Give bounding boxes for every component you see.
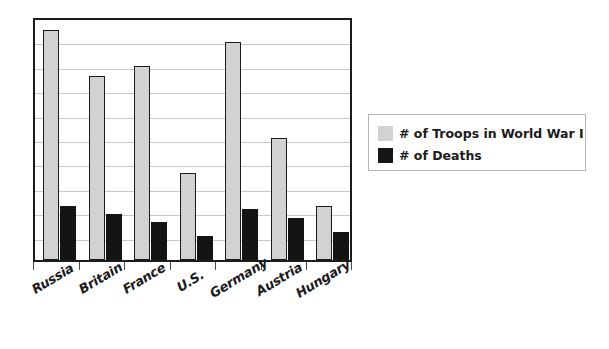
x-axis-label-france: France: [120, 260, 168, 297]
bar-britain-deaths: [106, 214, 122, 260]
x-axis-labels: RussiaBritainFranceU.S.GermanyAustriaHun…: [0, 262, 380, 349]
bar-us-troops: [180, 173, 196, 260]
x-axis-label-us: U.S.: [174, 267, 207, 295]
plot-area: [33, 18, 352, 262]
bar-france-troops: [134, 66, 150, 260]
bar-group: [217, 20, 263, 260]
legend-entry-troops: # of Troops in World War I: [378, 122, 585, 144]
bar-russia-troops: [43, 30, 59, 260]
bar-hungary-troops: [316, 206, 332, 260]
bar-chart: RussiaBritainFranceU.S.GermanyAustriaHun…: [0, 0, 609, 349]
legend-entry-deaths: # of Deaths: [378, 144, 585, 166]
bar-britain-troops: [89, 76, 105, 260]
legend-label-deaths: # of Deaths: [399, 148, 482, 163]
bar-austria-troops: [271, 138, 287, 260]
x-axis-label-britain: Britain: [76, 259, 125, 297]
x-axis-label-russia: Russia: [29, 260, 76, 297]
legend-swatch-troops-icon: [378, 126, 393, 141]
bar-hungary-deaths: [333, 232, 349, 260]
legend: # of Troops in World War I # of Deaths: [368, 114, 586, 171]
legend-label-troops: # of Troops in World War I: [399, 126, 584, 141]
bar-group: [126, 20, 172, 260]
bar-austria-deaths: [288, 218, 304, 260]
bar-us-deaths: [197, 236, 213, 260]
bar-germany-troops: [225, 42, 241, 260]
bar-russia-deaths: [60, 206, 76, 260]
bar-group: [172, 20, 218, 260]
bar-group: [81, 20, 127, 260]
bar-group: [35, 20, 81, 260]
bar-group: [263, 20, 309, 260]
legend-swatch-deaths-icon: [378, 148, 393, 163]
bar-germany-deaths: [242, 209, 258, 261]
bar-france-deaths: [151, 222, 167, 260]
x-axis-label-hungary: Hungary: [293, 257, 353, 301]
bar-group: [308, 20, 354, 260]
bars-layer: [35, 20, 350, 260]
